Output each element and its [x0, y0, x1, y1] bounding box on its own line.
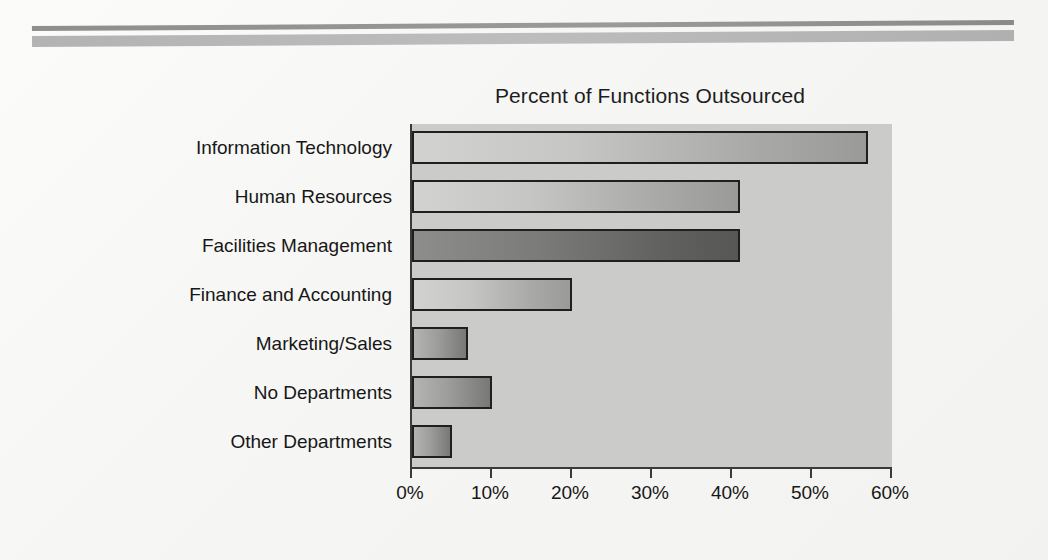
category-label: Human Resources — [120, 186, 392, 208]
bar-row — [412, 222, 892, 271]
x-tick-label: 40% — [695, 482, 765, 504]
bar-row — [412, 271, 892, 320]
bar-row — [412, 418, 892, 467]
category-axis-labels: Information TechnologyHuman ResourcesFac… — [120, 124, 402, 467]
category-label: No Departments — [120, 382, 392, 404]
bar-finance-and-accounting[interactable] — [412, 278, 572, 311]
x-tick-label: 30% — [615, 482, 685, 504]
bar-marketing-sales[interactable] — [412, 327, 468, 360]
chart-title: Percent of Functions Outsourced — [410, 84, 890, 108]
x-tick — [490, 467, 492, 478]
header-rule-thin — [32, 20, 1014, 31]
category-label: Other Departments — [120, 431, 392, 453]
x-tick — [650, 467, 652, 478]
x-tick-label: 10% — [455, 482, 525, 504]
x-tick — [570, 467, 572, 478]
bar-facilities-management[interactable] — [412, 229, 740, 262]
category-label: Marketing/Sales — [120, 333, 392, 355]
x-tick-label: 0% — [375, 482, 445, 504]
x-tick — [890, 467, 892, 478]
x-tick-label: 50% — [775, 482, 845, 504]
bar-no-departments[interactable] — [412, 376, 492, 409]
category-label: Finance and Accounting — [120, 284, 392, 306]
x-tick — [730, 467, 732, 478]
chart-page: Percent of Functions Outsourced Informat… — [0, 0, 1048, 560]
bar-row — [412, 173, 892, 222]
x-tick — [810, 467, 812, 478]
bar-row — [412, 124, 892, 173]
bar-human-resources[interactable] — [412, 180, 740, 213]
bar-row — [412, 369, 892, 418]
bar-row — [412, 320, 892, 369]
bar-series — [412, 124, 892, 467]
header-rule-thick — [32, 30, 1014, 47]
x-tick-label: 60% — [855, 482, 925, 504]
plot-area — [410, 124, 892, 467]
bar-information-technology[interactable] — [412, 131, 868, 164]
category-label: Facilities Management — [120, 235, 392, 257]
header-decorative-rules — [32, 20, 1014, 48]
x-tick-label: 20% — [535, 482, 605, 504]
category-label: Information Technology — [120, 137, 392, 159]
bar-other-departments[interactable] — [412, 425, 452, 458]
x-tick — [410, 467, 412, 478]
